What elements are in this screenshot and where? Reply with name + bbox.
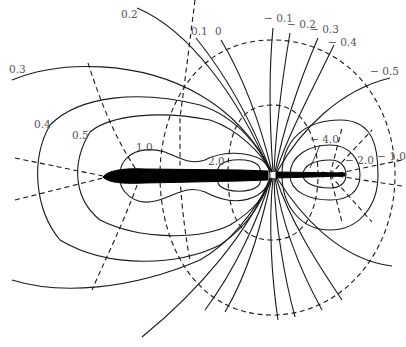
dashed-top-curve-a [180,0,195,118]
label-m2-0: − 2.0 [345,154,374,166]
dashed-lower-left-curve [92,177,140,290]
label-m0-4: − 0.4 [328,36,357,48]
contour-labels: 0.2 0.1 0 − 0.1 − 0.2 − 0.3 − 0.4 − 0.5 … [9,8,406,167]
label-0-4: 0.4 [34,118,51,130]
contour-m0-1-line [270,28,273,172]
contour-m0-2-line [274,33,290,172]
contour-fan-bottom-6 [275,178,322,310]
body-shape [103,169,345,184]
dashed-upper-left-curve [88,63,140,175]
contour-fan-bottom-4 [271,178,278,320]
body-thick-part [103,169,268,184]
label-0-2: 0.2 [121,8,138,20]
label-2-0: 2.0 [208,155,225,167]
label-1-0: 1.0 [136,141,153,153]
contour-0-4-lower [38,125,272,261]
dashed-left-upper [15,158,103,176]
field-diagram: 0.2 0.1 0 − 0.1 − 0.2 − 0.3 − 0.4 − 0.5 … [0,0,406,347]
label-m0-3: − 0.3 [310,23,339,35]
contour-0-3-upper [12,66,272,172]
label-0-3: 0.3 [9,63,26,75]
label-0-1: 0.1 [191,25,208,37]
label-m1-0: − 1.0 [377,150,406,162]
dashed-right-lower-ray [330,175,402,186]
dashed-left-lower [15,178,103,200]
body-thin-part [276,172,345,178]
contour-0-5-upper [90,115,272,172]
contour-0-line [221,40,272,172]
contour-m0-3-line [275,38,318,172]
label-0: 0 [215,25,222,37]
contour-0-5-lower [78,132,272,236]
label-m0-5: − 0.5 [370,65,399,77]
dashed-right-se-ray [330,175,372,222]
label-0-5: 0.5 [72,129,89,141]
label-m4-0: − 4.0 [310,133,339,145]
